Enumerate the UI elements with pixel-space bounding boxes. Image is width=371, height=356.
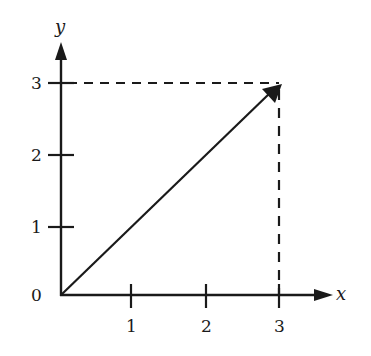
y-axis-label: y — [54, 16, 66, 37]
origin-label: 0 — [31, 285, 42, 305]
y-tick-label-3: 3 — [31, 73, 42, 93]
y-axis-arrow-icon — [55, 42, 67, 60]
x-tick-label-3: 3 — [274, 316, 285, 336]
y-tick-label-1: 1 — [31, 217, 42, 237]
x-axis-arrow-icon — [314, 289, 333, 301]
vector-diagram: 1 2 3 1 2 3 0 x y — [0, 0, 371, 356]
x-tick-label-2: 2 — [201, 316, 212, 336]
x-axis-label: x — [336, 283, 346, 304]
y-tick-label-2: 2 — [31, 145, 42, 165]
x-tick-label-1: 1 — [126, 316, 137, 336]
vector-arrow — [61, 92, 271, 295]
